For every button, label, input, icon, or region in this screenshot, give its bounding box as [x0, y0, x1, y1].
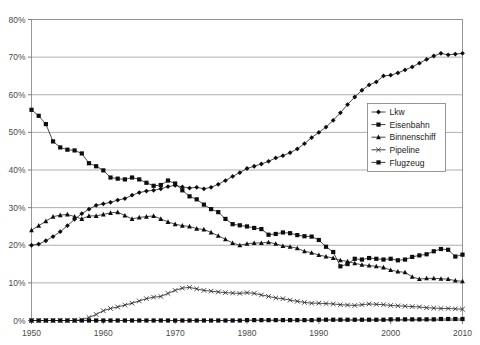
data-point-marker [123, 318, 127, 322]
data-point-marker [389, 317, 393, 321]
data-point-marker [374, 318, 378, 322]
data-point-marker [173, 181, 177, 185]
data-point-marker [453, 254, 457, 258]
data-point-marker [231, 318, 235, 322]
x-tick-label: 1970 [166, 328, 185, 338]
data-point-marker [274, 318, 278, 322]
data-point-marker [410, 317, 414, 321]
data-point-marker [152, 184, 156, 188]
y-tick-label: 60% [8, 90, 25, 100]
data-point-marker [87, 161, 91, 165]
data-point-marker [216, 210, 220, 214]
data-point-marker [367, 256, 371, 260]
data-point-marker [159, 183, 163, 187]
data-point-marker [37, 318, 41, 322]
data-point-marker [65, 318, 69, 322]
data-point-marker [166, 318, 170, 322]
data-point-marker [94, 318, 98, 322]
data-point-marker [202, 203, 206, 207]
data-point-marker [166, 178, 170, 182]
data-point-marker [288, 231, 292, 235]
data-point-marker [324, 318, 328, 322]
data-point-marker [374, 257, 378, 261]
data-point-marker [51, 318, 55, 322]
data-point-marker [310, 318, 314, 322]
data-point-marker [360, 318, 364, 322]
data-point-marker [432, 249, 436, 253]
data-point-marker [432, 317, 436, 321]
data-point-marker [80, 151, 84, 155]
data-point-marker [108, 175, 112, 179]
legend-label: Pipeline [390, 145, 421, 155]
data-point-marker [108, 318, 112, 322]
data-point-marker [403, 317, 407, 321]
data-point-marker [439, 317, 443, 321]
data-point-marker [460, 317, 464, 321]
data-point-marker [281, 230, 285, 234]
y-tick-label: 10% [8, 278, 25, 288]
data-point-marker [331, 250, 335, 254]
legend-label: Binnenschiff [390, 132, 437, 142]
data-point-marker [223, 217, 227, 221]
data-point-marker [295, 318, 299, 322]
data-point-marker [87, 318, 91, 322]
data-point-marker [29, 318, 33, 322]
data-point-marker [331, 318, 335, 322]
x-tick-label: 1980 [238, 328, 257, 338]
data-point-marker [274, 232, 278, 236]
data-point-marker [338, 318, 342, 322]
legend-label: Lkw [390, 107, 406, 117]
data-point-marker [116, 318, 120, 322]
data-point-marker [37, 114, 41, 118]
data-point-marker [259, 227, 263, 231]
legend-label: Eisenbahn [390, 120, 430, 130]
data-point-marker [252, 318, 256, 322]
data-point-marker [389, 257, 393, 261]
data-point-marker [396, 258, 400, 262]
data-point-marker [180, 318, 184, 322]
modal-split-line-chart: 0%10%20%30%40%50%60%70%80% 1950196019701… [0, 0, 480, 345]
data-point-marker [295, 233, 299, 237]
data-point-marker [173, 318, 177, 322]
data-point-marker [180, 188, 184, 192]
data-point-marker [101, 168, 105, 172]
data-point-marker [310, 234, 314, 238]
data-point-marker [123, 177, 127, 181]
data-point-marker [381, 318, 385, 322]
data-point-marker [195, 318, 199, 322]
data-point-marker [460, 253, 464, 257]
data-point-marker [439, 247, 443, 251]
x-tick-label: 2000 [381, 328, 400, 338]
data-point-marker [101, 318, 105, 322]
data-point-marker [144, 181, 148, 185]
data-point-marker [73, 148, 77, 152]
data-point-marker [58, 318, 62, 322]
y-tick-label: 80% [8, 15, 25, 25]
data-point-marker [130, 175, 134, 179]
data-point-marker [187, 318, 191, 322]
data-point-marker [231, 222, 235, 226]
data-point-marker [152, 318, 156, 322]
data-point-marker [417, 317, 421, 321]
data-point-marker [281, 318, 285, 322]
data-point-marker [417, 253, 421, 257]
data-point-marker [410, 255, 414, 259]
data-point-marker [137, 318, 141, 322]
data-point-marker [446, 248, 450, 252]
data-point-marker [302, 318, 306, 322]
legend-marker-icon [376, 123, 380, 127]
data-point-marker [381, 257, 385, 261]
x-tick-label: 1990 [309, 328, 328, 338]
y-tick-label: 20% [8, 240, 25, 250]
data-point-marker [44, 318, 48, 322]
legend-marker-icon [376, 160, 380, 164]
legend-label: Flugzeug [390, 158, 425, 168]
data-point-marker [94, 164, 98, 168]
data-point-marker [266, 233, 270, 237]
chart-legend[interactable]: LkwEisenbahnBinnenschiffPipelineFlugzeug [368, 104, 446, 172]
data-point-marker [324, 245, 328, 249]
data-point-marker [65, 148, 69, 152]
data-point-marker [396, 317, 400, 321]
data-point-marker [209, 318, 213, 322]
data-point-marker [259, 318, 263, 322]
